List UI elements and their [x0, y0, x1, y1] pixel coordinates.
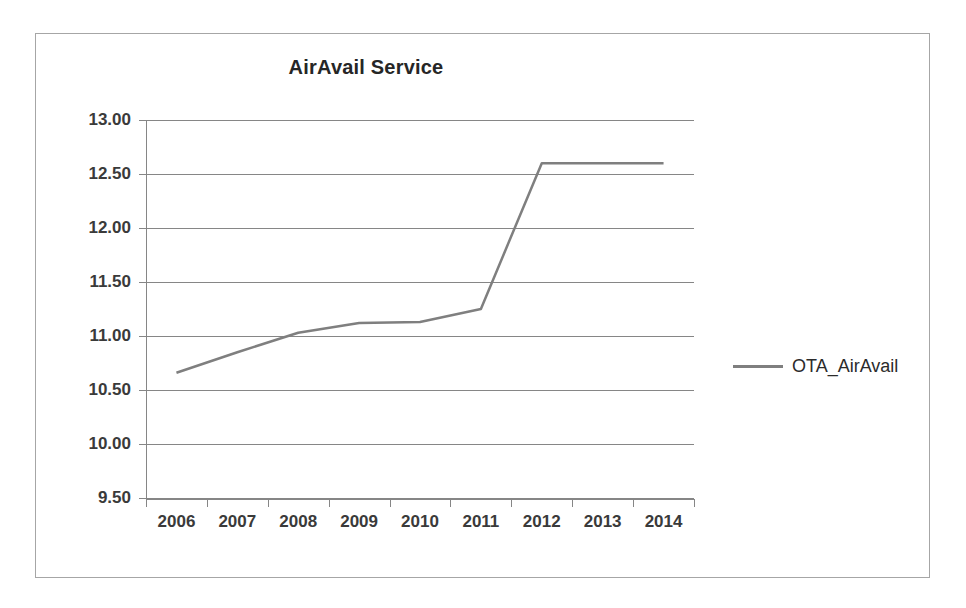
y-axis-tick	[139, 174, 146, 175]
x-axis-tick-label: 2010	[401, 512, 439, 532]
y-axis-tick	[139, 444, 146, 445]
x-axis-tick	[329, 499, 330, 507]
y-axis-tick-label: 11.00	[61, 326, 131, 346]
series-line-ota-airavail	[146, 120, 694, 498]
y-axis-labels: 13.0012.5012.0011.5011.0010.5010.009.50	[61, 34, 131, 577]
y-axis-tick-label: 12.00	[61, 218, 131, 238]
chart-container: AirAvail Service 13.0012.5012.0011.5011.…	[35, 33, 930, 578]
x-axis-tick	[511, 499, 512, 507]
y-axis-tick-label: 10.50	[61, 380, 131, 400]
x-axis-tick-label: 2011	[462, 512, 499, 532]
x-axis-tick-label: 2014	[645, 512, 683, 532]
y-axis-tick	[139, 228, 146, 229]
x-axis-tick	[572, 499, 573, 507]
y-axis-tick	[139, 282, 146, 283]
x-axis-tick	[146, 499, 147, 507]
x-axis-tick	[207, 499, 208, 507]
x-axis-tick-label: 2007	[218, 512, 256, 532]
chart-legend: OTA_AirAvail	[733, 356, 898, 377]
plot-area	[146, 120, 694, 498]
y-axis-tick-label: 12.50	[61, 164, 131, 184]
x-axis-tick-label: 2012	[523, 512, 561, 532]
legend-label-ota-airavail: OTA_AirAvail	[792, 356, 898, 377]
y-axis-tick	[139, 336, 146, 337]
x-axis-tick	[268, 499, 269, 507]
legend-line-swatch	[733, 365, 783, 368]
x-axis-tick-label: 2009	[340, 512, 378, 532]
y-axis-tick	[139, 120, 146, 121]
y-axis-tick-label: 11.50	[61, 272, 131, 292]
y-axis-tick-label: 9.50	[61, 488, 131, 508]
y-axis-tick	[139, 390, 146, 391]
y-axis-tick-label: 10.00	[61, 434, 131, 454]
x-axis-tick-label: 2006	[158, 512, 196, 532]
y-axis-tick-label: 13.00	[61, 110, 131, 130]
x-axis-tick	[390, 499, 391, 507]
x-axis-tick	[694, 499, 695, 507]
chart-title: AirAvail Service	[36, 56, 696, 79]
x-axis-tick-label: 2013	[584, 512, 622, 532]
y-axis-tick	[139, 498, 146, 499]
x-axis-tick	[633, 499, 634, 507]
x-axis-line	[146, 499, 694, 500]
x-axis-tick-label: 2008	[279, 512, 317, 532]
x-axis-tick	[450, 499, 451, 507]
